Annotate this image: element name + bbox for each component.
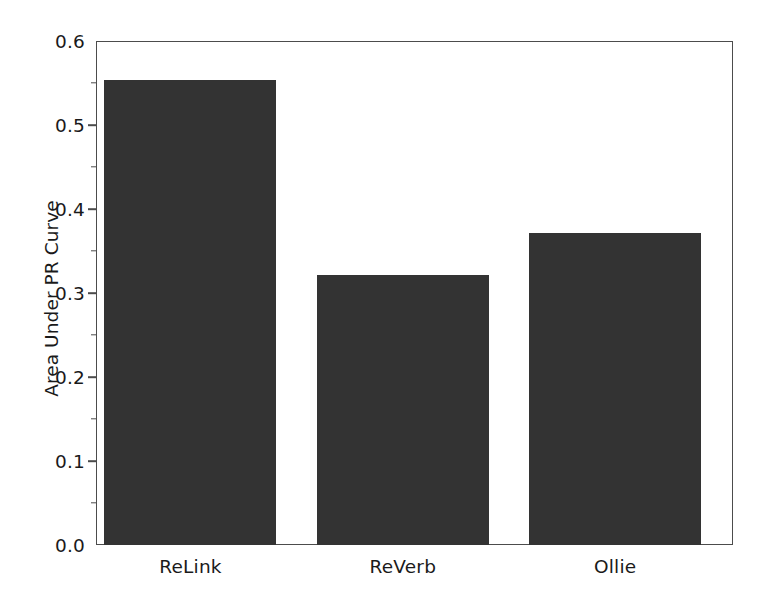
bar-reverb xyxy=(317,275,489,545)
y-tick-mark xyxy=(88,376,96,378)
x-tick-label-reverb: ReVerb xyxy=(370,556,437,577)
y-tick-minor-mark xyxy=(91,502,96,503)
bar-ollie xyxy=(529,233,701,545)
y-tick-mark xyxy=(88,460,96,462)
y-tick-mark xyxy=(88,208,96,210)
x-tick-label-relink: ReLink xyxy=(159,556,222,577)
bar-relink xyxy=(104,80,276,545)
y-tick-minor-mark xyxy=(91,334,96,335)
bar-chart-figure: 0.00.10.20.30.40.50.6 Area Under PR Curv… xyxy=(0,0,772,597)
x-tick-label-ollie: Ollie xyxy=(594,556,636,577)
y-tick-minor-mark xyxy=(91,82,96,83)
y-tick-mark xyxy=(88,124,96,126)
y-tick-mark xyxy=(88,292,96,294)
y-tick-minor-mark xyxy=(91,166,96,167)
y-tick-minor-mark xyxy=(91,250,96,251)
y-axis-title: Area Under PR Curve xyxy=(34,0,68,597)
y-tick-minor-mark xyxy=(91,418,96,419)
